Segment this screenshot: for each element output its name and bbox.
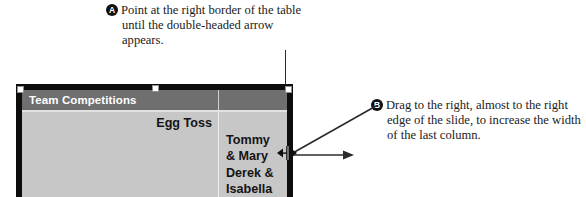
slide-table[interactable]: Team Competitions Egg Toss Tommy & Mary …	[16, 84, 293, 197]
horizontal-resize-cursor-icon[interactable]	[277, 144, 299, 162]
callout-b-leader-line	[288, 104, 378, 160]
selection-handle-top-middle[interactable]	[152, 85, 159, 92]
table-header-cell-empty[interactable]	[219, 90, 287, 110]
table-cell-event[interactable]: Egg Toss	[22, 112, 219, 197]
table-header-cell-title[interactable]: Team Competitions	[22, 90, 219, 110]
callout-a: APoint at the right border of the table …	[106, 3, 311, 49]
table-cell-participants-text: Tommy & Mary Derek & Isabella	[226, 133, 274, 197]
callout-a-text: Point at the right border of the table u…	[121, 3, 301, 47]
callout-b: BDrag to the right, almost to the right …	[371, 98, 585, 144]
table-header-label: Team Competitions	[29, 94, 137, 106]
callout-a-body: APoint at the right border of the table …	[106, 3, 311, 49]
callout-b-text: Drag to the right, almost to the right e…	[386, 98, 581, 142]
callout-a-marker: A	[106, 4, 118, 16]
selection-handle-top-left[interactable]	[17, 86, 24, 93]
callout-b-body: BDrag to the right, almost to the right …	[371, 98, 585, 144]
table-cell-event-text: Egg Toss	[156, 116, 212, 130]
table-header-row: Team Competitions	[22, 90, 287, 110]
table-row: Egg Toss Tommy & Mary Derek & Isabella	[22, 110, 287, 197]
callout-b-marker: B	[371, 99, 383, 111]
table-inner: Team Competitions Egg Toss Tommy & Mary …	[22, 90, 287, 197]
selection-handle-top-right[interactable]	[285, 86, 292, 93]
